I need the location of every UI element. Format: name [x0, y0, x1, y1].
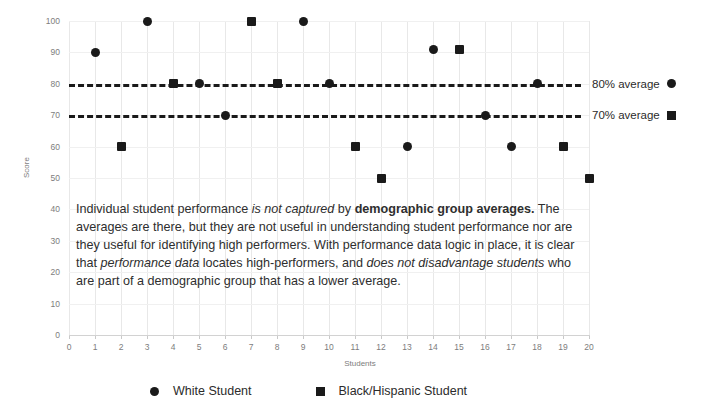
y-tick-label: 100 [26, 17, 60, 26]
circle-marker-icon [150, 387, 159, 396]
data-point-circle [507, 142, 516, 151]
annotation-seg-3: by [334, 202, 354, 216]
data-point-square [585, 174, 594, 183]
legend-item-white-student: White Student [150, 384, 252, 398]
reference-line-text: 70% average [592, 109, 660, 121]
x-tick-mark [355, 336, 356, 339]
x-axis-title: Students [0, 359, 720, 368]
y-tick-label: 20 [26, 268, 60, 277]
reference-line-text: 80% average [592, 78, 660, 90]
reference-line-label-70: 70% average [592, 109, 676, 121]
annotation-seg-4-bold: demographic group averages. [355, 202, 535, 216]
x-tick-label: 10 [317, 343, 341, 352]
x-tick-label: 3 [135, 343, 159, 352]
y-tick-label: 50 [26, 174, 60, 183]
data-point-square [117, 142, 126, 151]
x-tick-label: 2 [109, 343, 133, 352]
y-tick-label: 30 [26, 237, 60, 246]
chart-legend: White Student Black/Hispanic Student [150, 384, 467, 398]
x-tick-label: 4 [161, 343, 185, 352]
x-tick-mark [433, 336, 434, 339]
annotation-seg-1: Individual student performance [76, 202, 252, 216]
x-tick-mark [121, 336, 122, 339]
x-tick-mark [303, 336, 304, 339]
data-point-square [559, 142, 568, 151]
annotation-seg-8-italic: does not disadvantage students [367, 256, 545, 270]
annotation-seg-7: locates high-performers, and [199, 256, 366, 270]
reference-line-label-80: 80% average [592, 78, 676, 90]
x-tick-label: 15 [447, 343, 471, 352]
y-tick-label: 60 [26, 142, 60, 151]
x-tick-mark [511, 336, 512, 339]
x-tick-label: 0 [57, 343, 81, 352]
x-tick-mark [537, 336, 538, 339]
x-tick-mark [251, 336, 252, 339]
x-tick-label: 9 [291, 343, 315, 352]
x-tick-label: 1 [83, 343, 107, 352]
x-tick-label: 17 [499, 343, 523, 352]
data-point-square [377, 174, 386, 183]
x-tick-label: 19 [551, 343, 575, 352]
x-tick-mark [199, 336, 200, 339]
x-tick-label: 14 [421, 343, 445, 352]
x-tick-label: 18 [525, 343, 549, 352]
y-tick-label: 40 [26, 205, 60, 214]
gridline-horizontal [69, 52, 589, 53]
data-point-square [247, 17, 256, 26]
x-tick-mark [277, 336, 278, 339]
x-tick-label: 16 [473, 343, 497, 352]
data-point-square [351, 142, 360, 151]
legend-label: White Student [173, 384, 252, 398]
x-tick-mark [485, 336, 486, 339]
annotation-paragraph: Individual student performance is not ca… [76, 201, 576, 290]
y-tick-label: 90 [26, 48, 60, 57]
annotation-seg-2-italic: is not captured [252, 202, 335, 216]
scatter-chart: 0102030405060708090100 01234567891011121… [0, 0, 720, 414]
x-tick-mark [381, 336, 382, 339]
x-tick-label: 20 [577, 343, 601, 352]
gridline-horizontal [69, 178, 589, 179]
x-tick-mark [95, 336, 96, 339]
data-point-circle [429, 45, 438, 54]
gridline-horizontal [69, 304, 589, 305]
data-point-circle [299, 17, 308, 26]
x-tick-mark [589, 336, 590, 339]
legend-item-black-hispanic-student: Black/Hispanic Student [316, 384, 468, 398]
y-tick-label: 70 [26, 111, 60, 120]
annotation-seg-6-italic: performance data [101, 256, 200, 270]
x-tick-label: 8 [265, 343, 289, 352]
x-tick-label: 11 [343, 343, 367, 352]
square-marker-icon [316, 387, 325, 396]
x-tick-label: 6 [213, 343, 237, 352]
x-tick-label: 5 [187, 343, 211, 352]
reference-line-80 [69, 84, 581, 87]
legend-label: Black/Hispanic Student [339, 384, 468, 398]
x-tick-mark [147, 336, 148, 339]
y-tick-label: 10 [26, 299, 60, 308]
x-tick-label: 13 [395, 343, 419, 352]
x-tick-mark [459, 336, 460, 339]
y-tick-label: 0 [26, 331, 60, 340]
y-tick-label: 80 [26, 80, 60, 89]
square-marker-icon [667, 111, 676, 120]
x-tick-mark [563, 336, 564, 339]
x-tick-mark [407, 336, 408, 339]
data-point-square [455, 45, 464, 54]
x-tick-mark [225, 336, 226, 339]
y-axis-title: Score [22, 157, 31, 178]
data-point-circle [403, 142, 412, 151]
data-point-circle [143, 17, 152, 26]
reference-line-70 [69, 115, 581, 118]
x-tick-label: 7 [239, 343, 263, 352]
x-tick-mark [329, 336, 330, 339]
x-tick-mark [173, 336, 174, 339]
x-tick-mark [69, 336, 70, 339]
circle-marker-icon [667, 79, 676, 88]
data-point-circle [91, 48, 100, 57]
x-tick-label: 12 [369, 343, 393, 352]
